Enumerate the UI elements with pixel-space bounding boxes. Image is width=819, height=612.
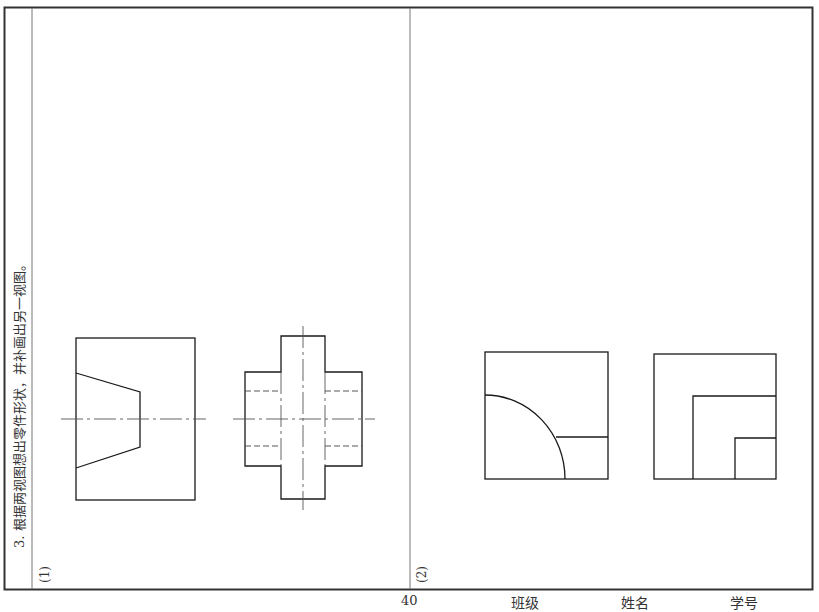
part2-label: (2) bbox=[415, 566, 429, 583]
name-label: 姓名 bbox=[621, 592, 649, 612]
outer-frame bbox=[5, 8, 813, 590]
student-id-label: 学号 bbox=[730, 592, 758, 612]
part1-view-a bbox=[61, 338, 206, 500]
part1-view-b bbox=[233, 326, 375, 510]
part2-view-a bbox=[485, 352, 608, 479]
part1-label: (1) bbox=[38, 566, 52, 583]
instruction-text: 3. 根据两视图想出零件形状，并补画出另一视图。 bbox=[9, 258, 28, 548]
part2-view-b bbox=[654, 354, 776, 479]
class-label: 班级 bbox=[511, 592, 539, 612]
page-number: 40 bbox=[401, 593, 418, 608]
worksheet-drawing bbox=[0, 0, 819, 612]
